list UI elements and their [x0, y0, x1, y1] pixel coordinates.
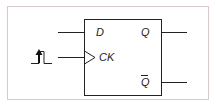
clock-triangle-icon: [85, 51, 96, 64]
qbar-label: Q: [141, 77, 150, 88]
q-label: Q: [141, 27, 150, 38]
rising-edge-pulse-icon: [31, 49, 52, 64]
d-label: D: [96, 27, 104, 38]
ck-label: CK: [99, 52, 114, 63]
